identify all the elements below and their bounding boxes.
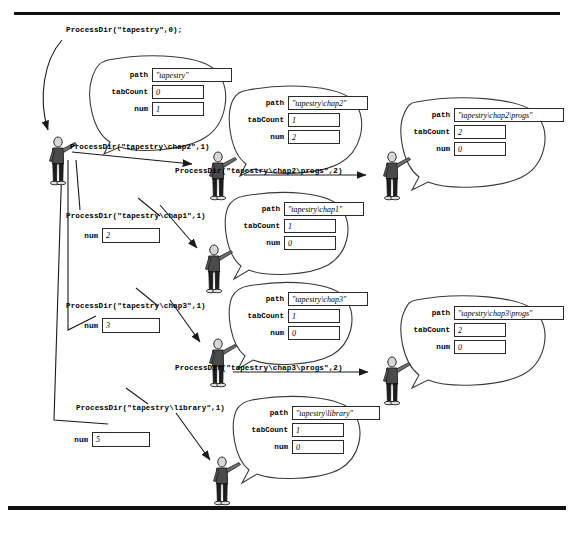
var-label-num: num: [236, 443, 292, 451]
var-row-num: num 5: [62, 432, 150, 447]
var-value-num: 0: [454, 142, 506, 156]
frame-chap3-progs: path "tapestry\chap3\progs" tabCount 2 n…: [398, 306, 564, 357]
var-row-path: path "tapestry\chap3": [232, 292, 368, 306]
call-label-chap2: ProcessDir("tapestry\chap2",1): [70, 143, 210, 151]
var-label-path: path: [96, 71, 152, 79]
var-row-path: path "tapestry": [96, 68, 232, 82]
loose-num-chap3: num 3: [72, 318, 160, 336]
var-row-num: num 2: [232, 130, 368, 144]
var-value-path: "tapestry\chap3\progs": [454, 306, 564, 320]
frame-chap2-progs: path "tapestry\chap2\progs" tabCount 2 n…: [398, 108, 564, 159]
var-row-path: path "tapestry\chap1": [228, 202, 364, 216]
var-value-path: "tapestry\library": [292, 406, 380, 420]
frame-tapestry: path "tapestry" tabCount 0 num 1: [96, 68, 232, 119]
arrow-tapestry-to-chap2: [72, 152, 192, 164]
loose-num-library: num 5: [62, 432, 150, 450]
arrow-tapestry-stem-library: [54, 160, 108, 424]
var-label-num: num: [72, 232, 102, 240]
call-label-library: ProcessDir("tapestry\library",1): [76, 404, 225, 412]
frame-library: path "tapestry\library" tabCount 1 num 0: [236, 406, 380, 457]
var-label-path: path: [228, 205, 284, 213]
var-row-path: path "tapestry\library": [236, 406, 380, 420]
var-row-tabcount: tabCount 2: [398, 125, 564, 139]
var-label-tabcount: tabCount: [232, 312, 288, 320]
var-label-path: path: [232, 99, 288, 107]
var-row-tabcount: tabCount 0: [96, 85, 232, 99]
var-value-num: 5: [92, 432, 150, 447]
var-value-tabcount: 1: [288, 309, 340, 323]
arrow-library-stem: [126, 388, 148, 404]
call-label-chap3-progs: ProcessDir("tapestry\chap3\progs",2): [175, 364, 343, 372]
var-value-num: 3: [102, 318, 160, 333]
var-label-num: num: [398, 145, 454, 153]
var-label-tabcount: tabCount: [398, 326, 454, 334]
var-row-tabcount: tabCount 2: [398, 323, 564, 337]
frame-chap1: path "tapestry\chap1" tabCount 1 num 0: [228, 202, 364, 253]
var-label-num: num: [398, 343, 454, 351]
figure-chap3-progs: [384, 357, 411, 405]
var-row-num: num 1: [96, 102, 232, 116]
var-label-tabcount: tabCount: [96, 88, 152, 96]
var-value-num: 0: [284, 236, 336, 250]
figure-chap2: [210, 152, 237, 200]
var-label-num: num: [62, 436, 92, 444]
var-label-tabcount: tabCount: [398, 128, 454, 136]
var-label-tabcount: tabCount: [232, 116, 288, 124]
var-label-path: path: [398, 111, 454, 119]
var-value-tabcount: 1: [292, 423, 344, 437]
var-value-num: 1: [152, 102, 204, 116]
diagram-artwork: [0, 0, 575, 539]
root-call-label: ProcessDir("tapestry",0);: [66, 26, 182, 34]
var-row-num: num 0: [398, 340, 564, 354]
frame-chap2: path "tapestry\chap2" tabCount 1 num 2: [232, 96, 368, 147]
var-row-path: path "tapestry\chap2": [232, 96, 368, 110]
var-value-num: 2: [102, 228, 160, 243]
var-label-tabcount: tabCount: [228, 222, 284, 230]
var-value-path: "tapestry\chap2\progs": [454, 108, 564, 122]
arrow-to-library: [176, 413, 210, 460]
var-row-num: num 0: [228, 236, 364, 250]
var-row-path: path "tapestry\chap3\progs": [398, 306, 564, 320]
var-row-tabcount: tabCount 1: [228, 219, 364, 233]
var-value-num: 0: [292, 440, 344, 454]
var-value-tabcount: 2: [454, 125, 506, 139]
var-row-num: num 2: [72, 228, 160, 243]
var-value-tabcount: 2: [454, 323, 506, 337]
var-value-tabcount: 0: [152, 85, 204, 99]
var-value-num: 0: [288, 326, 340, 340]
arrow-tapestry-stem-chap1: [76, 160, 80, 210]
var-row-num: num 3: [72, 318, 160, 333]
var-label-path: path: [232, 295, 288, 303]
var-value-path: "tapestry\chap1": [284, 202, 364, 216]
call-label-chap3: ProcessDir("tapestry\chap3",1): [66, 302, 206, 310]
var-label-num: num: [232, 329, 288, 337]
var-row-num: num 0: [232, 326, 368, 340]
var-row-tabcount: tabCount 1: [232, 113, 368, 127]
var-value-path: "tapestry\chap2": [288, 96, 368, 110]
diagram-canvas: ProcessDir("tapestry",0); ProcessDir("ta…: [0, 0, 575, 539]
var-label-num: num: [72, 322, 102, 330]
var-value-path: "tapestry\chap3": [288, 292, 368, 306]
var-label-path: path: [236, 409, 292, 417]
var-label-path: path: [398, 309, 454, 317]
arrow-root-to-tapestry: [43, 40, 62, 130]
var-label-tabcount: tabCount: [236, 426, 292, 434]
var-label-num: num: [228, 239, 284, 247]
var-value-tabcount: 1: [284, 219, 336, 233]
var-value-path: "tapestry": [152, 68, 232, 82]
figure-library: [214, 457, 241, 505]
var-row-num: num 0: [398, 142, 564, 156]
var-row-tabcount: tabCount 1: [232, 309, 368, 323]
call-label-chap2-progs: ProcessDir("tapestry\chap2\progs",2): [175, 167, 343, 175]
var-label-num: num: [232, 133, 288, 141]
var-row-tabcount: tabCount 1: [236, 423, 380, 437]
var-value-tabcount: 1: [288, 113, 340, 127]
figure-chap3: [210, 339, 237, 387]
figure-chap2-progs: [384, 152, 411, 200]
var-row-num: num 0: [236, 440, 380, 454]
frame-chap3: path "tapestry\chap3" tabCount 1 num 0: [232, 292, 368, 343]
call-label-chap1: ProcessDir("tapestry\chap1",1): [66, 212, 206, 220]
var-value-num: 0: [454, 340, 506, 354]
var-value-num: 2: [288, 130, 340, 144]
var-label-num: num: [96, 105, 152, 113]
